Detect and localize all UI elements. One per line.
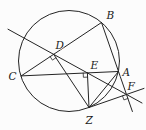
chord-CA <box>21 72 118 76</box>
geometry-figure-wrap: ABCDEFZ <box>0 0 146 130</box>
point-label-E: E <box>90 59 99 71</box>
point-label-B: B <box>106 9 115 21</box>
point-label-A: A <box>122 66 131 78</box>
simson-line-diagram: ABCDEFZ <box>0 0 146 130</box>
segment-ZE <box>87 73 89 108</box>
segment-ZD <box>54 54 89 107</box>
point-label-D: D <box>55 39 65 51</box>
point-label-Z: Z <box>85 114 94 126</box>
point-label-C: C <box>9 70 17 82</box>
circumscribed-circle <box>19 11 120 112</box>
point-label-F: F <box>127 80 136 92</box>
